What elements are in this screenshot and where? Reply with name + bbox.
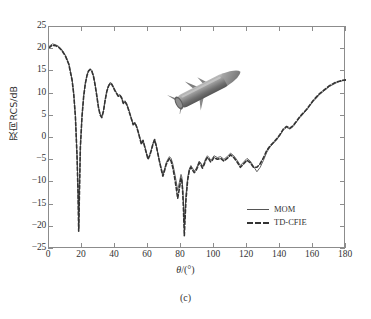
x-tick-top	[312, 26, 313, 31]
y-tick	[48, 137, 53, 138]
y-tick-label: 25	[6, 21, 46, 31]
y-tick	[48, 93, 53, 94]
x-tick	[279, 243, 280, 248]
figure-container: 2520151050−5−10−15−20−25 020406080100120…	[0, 0, 371, 319]
x-tick-label: 140	[264, 250, 294, 260]
x-tick-top	[246, 26, 247, 31]
x-tick	[81, 243, 82, 248]
legend: MOMTD-CFIE	[247, 203, 307, 229]
missile-3d-model-icon	[162, 62, 248, 114]
x-tick-top	[180, 26, 181, 31]
x-tick-label: 0	[33, 250, 63, 260]
legend-item-td-cfie: TD-CFIE	[247, 216, 307, 229]
x-tick	[246, 243, 247, 248]
x-tick-label: 160	[297, 250, 327, 260]
legend-line-icon	[247, 206, 269, 214]
x-tick	[213, 243, 214, 248]
y-tick-label: 20	[6, 43, 46, 53]
y-tick-right	[340, 137, 345, 138]
x-tick-label: 40	[99, 250, 129, 260]
y-tick-right	[340, 115, 345, 116]
y-tick	[48, 70, 53, 71]
x-tick-top	[81, 26, 82, 31]
y-tick	[48, 226, 53, 227]
y-tick-right	[340, 159, 345, 160]
y-tick	[48, 181, 53, 182]
y-tick-right	[340, 70, 345, 71]
x-tick	[48, 243, 49, 248]
legend-label: TD-CFIE	[274, 216, 307, 229]
y-tick-label: 15	[6, 65, 46, 75]
x-tick-top	[114, 26, 115, 31]
legend-line-icon	[247, 219, 269, 227]
y-tick-right	[340, 181, 345, 182]
y-tick	[48, 48, 53, 49]
x-tick	[180, 243, 181, 248]
x-tick-top	[279, 26, 280, 31]
legend-item-mom: MOM	[247, 203, 307, 216]
y-axis-title: 双向RCS/dB	[8, 86, 24, 141]
x-tick-top	[345, 26, 346, 31]
x-tick	[345, 243, 346, 248]
y-tick	[48, 159, 53, 160]
x-tick-label: 20	[66, 250, 96, 260]
legend-label: MOM	[274, 203, 295, 216]
y-tick-right	[340, 93, 345, 94]
y-tick-right	[340, 48, 345, 49]
x-tick-top	[213, 26, 214, 31]
y-tick-right	[340, 204, 345, 205]
y-tick-right	[340, 226, 345, 227]
y-tick	[48, 115, 53, 116]
x-tick	[147, 243, 148, 248]
x-tick	[312, 243, 313, 248]
x-tick-top	[48, 26, 49, 31]
x-tick	[114, 243, 115, 248]
x-tick-label: 80	[165, 250, 195, 260]
x-tick-label: 120	[231, 250, 261, 260]
y-tick-label: −5	[6, 154, 46, 164]
y-tick-label: −20	[6, 221, 46, 231]
x-tick-label: 60	[132, 250, 162, 260]
x-tick-label: 100	[198, 250, 228, 260]
y-tick-label: −15	[6, 199, 46, 209]
x-axis-title: θ/(°)	[0, 264, 371, 275]
figure-caption: (c)	[0, 292, 371, 303]
x-axis-title-unit: /(°)	[181, 264, 194, 275]
x-tick-top	[147, 26, 148, 31]
x-tick-label: 180	[330, 250, 360, 260]
y-tick	[48, 204, 53, 205]
y-tick-label: −10	[6, 176, 46, 186]
